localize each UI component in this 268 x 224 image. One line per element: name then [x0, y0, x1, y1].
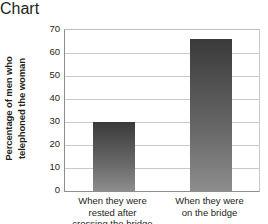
y-axis-title-line-1: Percentage of men who: [3, 56, 16, 161]
bar: [190, 39, 232, 191]
y-axis-title: Percentage of men who telephoned the wom…: [0, 18, 30, 198]
x-axis-category-label-line: on the bridge: [161, 207, 258, 219]
plot-area: [64, 29, 260, 192]
y-axis-tick-label: 30: [34, 116, 60, 126]
x-axis-category-label-line: crossing the bridge: [64, 218, 161, 224]
bars-layer: [65, 30, 259, 191]
y-axis-tick-label: 20: [34, 139, 60, 149]
x-axis-category-label-line: When they were: [161, 195, 258, 207]
x-axis-category-label-line: When they were: [64, 195, 161, 207]
x-axis-category-labels: When they wererested aftercrossing the b…: [64, 195, 260, 224]
bar-chart-figure: Percentage of men who telephoned the wom…: [0, 18, 268, 224]
x-axis-category-label-line: rested after: [64, 207, 161, 219]
x-axis-category-label: When they wererested aftercrossing the b…: [64, 195, 161, 224]
y-axis-tick-label: 40: [34, 93, 60, 103]
y-axis-title-line-2: telephoned the woman: [15, 56, 28, 161]
y-axis-tick-label: 70: [34, 24, 60, 34]
x-axis-category-label: When they wereon the bridge: [161, 195, 258, 218]
y-axis-tick-labels: 706050403020100: [31, 18, 60, 224]
y-axis-tick-label: 10: [34, 162, 60, 172]
y-axis-tick-label: 50: [34, 70, 60, 80]
y-axis-tick-label: 60: [34, 47, 60, 57]
y-axis-tick-label: 0: [34, 185, 60, 195]
bar: [93, 122, 135, 191]
